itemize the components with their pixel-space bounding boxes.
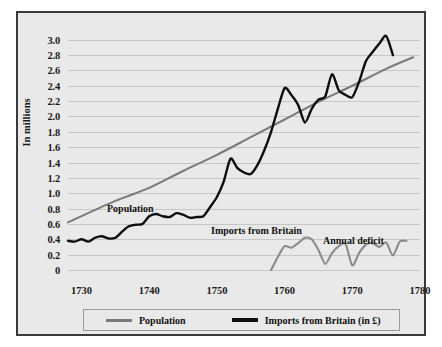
y-axis-tick: 1.6 xyxy=(47,142,60,153)
chart-legend: Population Imports from Britain (in £) xyxy=(83,309,400,331)
x-axis-tick: 1780 xyxy=(410,285,431,296)
y-axis-tick: 0 xyxy=(55,265,60,276)
y-axis-tick: 1.8 xyxy=(47,126,60,137)
y-axis-tick: 3.0 xyxy=(47,34,60,45)
y-axis-tick: 0.4 xyxy=(47,234,60,245)
legend-label-imports-from-britain: Imports from Britain (in £) xyxy=(265,315,381,326)
y-axis-tick: 2.6 xyxy=(47,65,60,76)
legend-swatch-imports-from-britain xyxy=(232,318,258,322)
y-axis-tick: 2.8 xyxy=(47,50,60,61)
y-axis-tick: 1.0 xyxy=(47,188,60,199)
y-axis-tick: 0.2 xyxy=(47,249,60,260)
legend-swatch-population xyxy=(106,319,132,322)
legend-entry-population: Population xyxy=(106,315,186,326)
x-axis-tick: 1750 xyxy=(206,285,227,296)
x-axis-tick: 1770 xyxy=(342,285,363,296)
gridline xyxy=(68,270,420,271)
y-axis-tick-labels: 00.20.40.60.81.01.21.41.61.82.02.22.42.6… xyxy=(18,32,64,270)
series-line-population xyxy=(68,57,413,222)
annotation-annual-deficit: Annual deficit xyxy=(323,235,384,246)
x-axis-tick-labels: 173017401750176017701780 xyxy=(68,285,420,303)
y-axis-tick: 2.4 xyxy=(47,80,60,91)
legend-entry-imports-from-britain: Imports from Britain (in £) xyxy=(232,315,381,326)
y-axis-tick: 0.8 xyxy=(47,203,60,214)
y-axis-tick: 1.4 xyxy=(47,157,60,168)
y-axis-tick: 0.6 xyxy=(47,218,60,229)
y-axis-tick: 2.0 xyxy=(47,111,60,122)
x-axis-tick: 1760 xyxy=(274,285,295,296)
y-axis-tick: 2.2 xyxy=(47,96,60,107)
x-axis-tick: 1730 xyxy=(71,285,92,296)
annotation-population: Population xyxy=(107,203,154,214)
x-axis-tick: 1740 xyxy=(139,285,160,296)
annotation-imports-from-britain: Imports from Britain xyxy=(211,225,302,236)
chart-container: In millions 00.20.40.60.81.01.21.41.61.8… xyxy=(16,11,426,336)
legend-label-population: Population xyxy=(139,315,186,326)
y-axis-tick: 1.2 xyxy=(47,172,60,183)
